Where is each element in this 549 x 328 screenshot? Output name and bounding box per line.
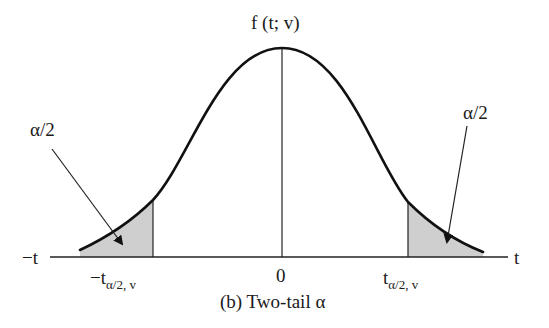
left-critical-sub: α/2, v — [106, 277, 136, 292]
left-critical-label: −tα/2, v — [90, 268, 136, 291]
right-critical-sub: α/2, v — [388, 277, 418, 292]
center-tick-label: 0 — [276, 266, 286, 285]
left-tail-arrow — [52, 149, 122, 244]
right-tail-label: α/2 — [463, 103, 488, 122]
left-critical-main: −t — [90, 267, 106, 288]
right-tail-shade — [408, 202, 483, 257]
right-critical-label: tα/2, v — [383, 268, 418, 291]
x-axis-right-label: t — [514, 248, 519, 267]
left-tail-label: α/2 — [30, 120, 55, 139]
figure-caption: (b) Two-tail α — [220, 292, 325, 311]
t-distribution-diagram — [0, 0, 549, 328]
right-tail-arrow — [447, 126, 467, 242]
x-axis-left-label: −t — [22, 248, 38, 267]
y-axis-label: f (t; v) — [251, 13, 300, 32]
